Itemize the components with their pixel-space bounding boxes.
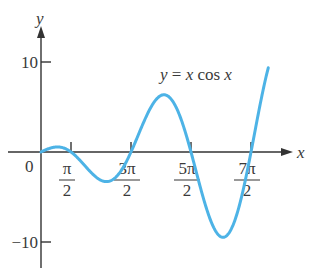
x-tick-numerator: π bbox=[63, 159, 72, 178]
x-axis-label: x bbox=[296, 143, 305, 162]
x-tick-denominator: 2 bbox=[123, 181, 132, 200]
origin-label: 0 bbox=[25, 157, 34, 176]
y-tick-label-10: 10 bbox=[21, 53, 38, 72]
axes bbox=[8, 34, 284, 268]
chart: π23π25π27π2 y x 0 10 −10 y = x cos x bbox=[0, 0, 320, 277]
function-label: y = x cos x bbox=[158, 65, 232, 84]
y-tick-label-neg10: −10 bbox=[11, 233, 38, 252]
y-axis-label: y bbox=[34, 9, 44, 28]
x-tick-denominator: 2 bbox=[183, 181, 192, 200]
x-axis-arrow-icon bbox=[281, 148, 293, 156]
x-tick-denominator: 2 bbox=[63, 181, 72, 200]
